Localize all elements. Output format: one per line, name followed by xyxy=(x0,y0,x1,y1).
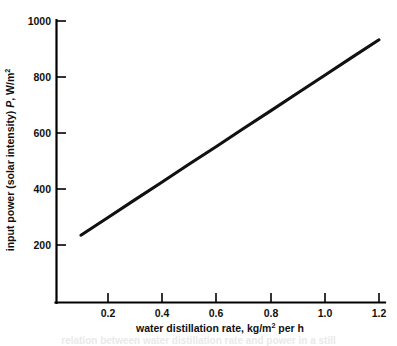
figure-container: 1000 800 600 400 200 0.2 0.4 0.6 0.8 1.0… xyxy=(0,0,397,346)
x-tick-label-0.4: 0.4 xyxy=(155,307,170,319)
y-tick-label-400: 400 xyxy=(33,183,51,195)
chart-canvas: 1000 800 600 400 200 0.2 0.4 0.6 0.8 1.0… xyxy=(0,0,397,346)
x-tick-label-1.0: 1.0 xyxy=(318,307,333,319)
cropped-caption-text: relation between water distillation rate… xyxy=(0,335,397,346)
y-tick-label-1000: 1000 xyxy=(28,15,52,27)
x-tick-marks xyxy=(108,293,379,302)
data-series-line xyxy=(81,40,379,235)
y-tick-label-600: 600 xyxy=(33,127,51,139)
y-axis-title: input power (solar intensity) P, W/m2 xyxy=(3,69,16,252)
x-tick-label-0.2: 0.2 xyxy=(101,307,116,319)
y-tick-label-200: 200 xyxy=(33,239,51,251)
x-tick-label-1.2: 1.2 xyxy=(372,307,387,319)
x-tick-label-0.6: 0.6 xyxy=(209,307,224,319)
x-axis-title-tail: per h xyxy=(275,322,304,334)
x-axis-title: water distillation rate, kg/m2 per h xyxy=(135,321,304,334)
y-axis-title-mid: , W/m xyxy=(4,73,16,101)
y-tick-label-800: 800 xyxy=(33,71,51,83)
y-axis-title-sup: 2 xyxy=(3,69,12,73)
x-tick-label-0.8: 0.8 xyxy=(264,307,279,319)
y-tick-labels: 1000 800 600 400 200 xyxy=(28,15,52,251)
x-tick-labels: 0.2 0.4 0.6 0.8 1.0 1.2 xyxy=(101,307,387,319)
y-axis-title-pre: input power (solar intensity) xyxy=(4,108,16,252)
x-axis-title-main: water distillation rate, kg/m xyxy=(135,322,271,334)
